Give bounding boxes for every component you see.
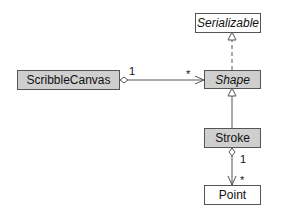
multiplicity-label: 1 [129, 65, 135, 77]
hollow-triangle-icon [228, 32, 236, 40]
multiplicity-label: * [186, 68, 190, 80]
multiplicity-label: 1 [240, 153, 246, 165]
class-serializable: Serializable [195, 13, 261, 33]
class-stroke: Stroke [204, 128, 261, 148]
class-shape: Shape [204, 70, 261, 89]
aggregation-diamond-icon [120, 77, 128, 83]
multiplicity-label: * [240, 174, 244, 186]
hollow-triangle-icon [228, 88, 236, 96]
class-scribble-canvas: ScribbleCanvas [17, 70, 120, 90]
class-point: Point [204, 185, 261, 205]
aggregation-diamond-icon [229, 148, 235, 156]
